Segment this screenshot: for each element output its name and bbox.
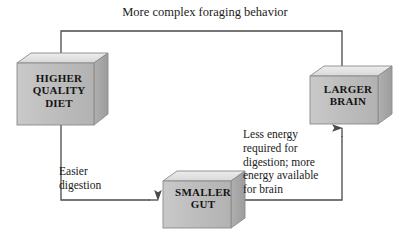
node-higher-quality-diet[interactable] <box>17 53 108 125</box>
node-larger-brain[interactable] <box>310 66 392 124</box>
edge-gut-to-brain <box>245 128 342 200</box>
diagram-canvas <box>0 0 410 234</box>
node-smaller-gut[interactable] <box>163 171 245 228</box>
foraging-behavior-diagram: HIGHER QUALITY DIET LARGER BRAIN SMALLER… <box>0 0 410 234</box>
edge-diet-to-gut <box>61 125 158 200</box>
